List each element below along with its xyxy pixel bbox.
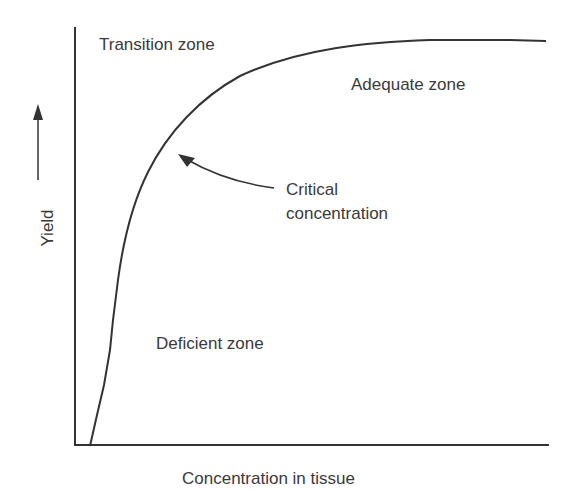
- critical-arrow-line: [186, 159, 274, 188]
- chart-plot-area: [0, 0, 580, 494]
- critical-concentration-label-line1: Critical: [286, 180, 338, 200]
- critical-concentration-label-line2: concentration: [286, 204, 388, 224]
- yield-curve: [90, 40, 546, 446]
- adequate-zone-label: Adequate zone: [351, 75, 465, 95]
- x-axis-label: Concentration in tissue: [182, 469, 355, 489]
- up-arrow-icon: [33, 104, 43, 120]
- y-axis-label: Yield: [38, 206, 58, 250]
- yield-response-chart: Transition zone Adequate zone Critical c…: [0, 0, 580, 494]
- critical-arrowhead-icon: [178, 154, 195, 167]
- transition-zone-label: Transition zone: [99, 35, 215, 55]
- deficient-zone-label: Deficient zone: [156, 334, 264, 354]
